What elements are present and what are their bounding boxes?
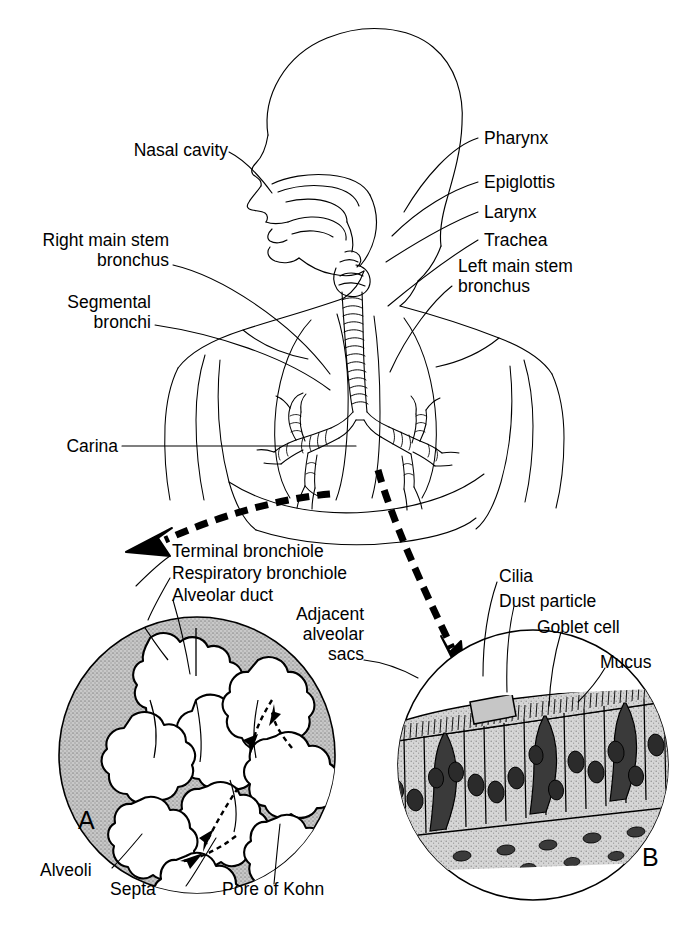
label-carina: Carina [4, 436, 118, 456]
leader-adjacent-alveolar-sacs [364, 660, 418, 678]
leader-pharynx [404, 138, 478, 212]
label-terminal-bronchiole: Terminal bronchiole [172, 541, 324, 561]
lung-outlines [275, 314, 437, 500]
head-outline [247, 28, 462, 281]
label-right-main-stem-bronchus: Right main stem bronchus [4, 230, 169, 270]
leader-right-main-stem-bronchus [173, 265, 330, 374]
leader-epiglottis [392, 182, 478, 236]
leader-nasal-cavity [229, 152, 272, 193]
label-respiratory-bronchiole: Respiratory bronchiole [172, 563, 347, 583]
label-pharynx: Pharynx [484, 128, 548, 148]
label-septa: Septa [110, 879, 156, 899]
leader-respiratory-bronchiole [148, 578, 170, 620]
panel-label-a: A [78, 808, 95, 833]
label-dust-particle: Dust particle [499, 591, 596, 611]
trachea [342, 292, 368, 412]
leader-larynx [386, 212, 478, 262]
label-adjacent-alveolar-sacs: Adjacent alveolar sacs [228, 604, 364, 664]
arrowhead-panel-a [126, 528, 172, 556]
label-cilia: Cilia [499, 566, 533, 586]
label-left-main-stem-bronchus: Left main stem bronchus [458, 256, 573, 296]
label-pore-of-kohn: Pore of Kohn [222, 879, 324, 899]
label-trachea: Trachea [484, 230, 548, 250]
pointer-arrow-panel-a [165, 494, 330, 540]
leader-terminal-bronchiole [136, 556, 170, 586]
panel-label-b: B [642, 845, 659, 870]
label-alveolar-duct: Alveolar duct [172, 585, 273, 605]
label-larynx: Larynx [484, 202, 537, 222]
respiratory-system-diagram: Nasal cavity Right main stem bronchus Se… [0, 0, 683, 935]
label-goblet-cell: Goblet cell [537, 617, 620, 637]
leader-left-main-stem-bronchus [390, 286, 452, 372]
label-segmental-bronchi: Segmental bronchi [4, 292, 151, 332]
label-mucus: Mucus [600, 652, 652, 672]
label-alveoli: Alveoli [40, 860, 92, 880]
torso-outline [165, 271, 564, 545]
label-epiglottis: Epiglottis [484, 172, 555, 192]
label-nasal-cavity: Nasal cavity [14, 140, 228, 160]
leader-segmental-bronchi [155, 325, 330, 390]
